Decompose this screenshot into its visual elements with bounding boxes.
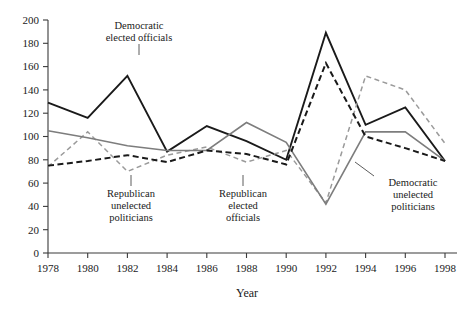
annotation-label-republican-unelected-politicians: Republicanunelectedpoliticians	[107, 188, 156, 223]
annotation-label-democratic-unelected-politicians: Democraticunelectedpoliticians	[389, 177, 438, 212]
annotation-line: Republican	[219, 188, 268, 199]
y-axis-tick-label: 100	[23, 130, 40, 142]
annotations-layer: Democraticelected officialsRepublicanune…	[106, 20, 438, 223]
y-axis-tick-label: 180	[23, 37, 40, 49]
x-axis-tick-label: 1986	[196, 262, 219, 274]
annotation-line: Republican	[107, 188, 156, 199]
series-line-1	[48, 76, 445, 203]
x-axis-tick-label: 1982	[116, 262, 138, 274]
annotation-line: elected officials	[106, 32, 173, 43]
y-axis-tick-label: 200	[23, 14, 40, 26]
x-axis-tick-label: 1990	[275, 262, 298, 274]
annotation-line: officials	[226, 212, 260, 223]
x-axis-tick-label: 1980	[77, 262, 100, 274]
annotation-line: unelected	[393, 189, 434, 200]
x-axis-tick-label: 1984	[156, 262, 179, 274]
x-axis-tick-label: 1998	[434, 262, 457, 274]
y-axis: 020406080100120140160180200	[23, 14, 49, 259]
y-axis-tick-label: 0	[34, 247, 40, 259]
annotation-line: politicians	[391, 201, 435, 212]
chart-container: 020406080100120140160180200 197819801982…	[0, 0, 469, 310]
y-axis-tick-label: 40	[28, 200, 40, 212]
annotation-label-republican-elected-officials: Republicanelectedofficials	[219, 188, 268, 223]
series-line-3	[48, 63, 445, 166]
series-layer	[48, 33, 445, 204]
y-axis-tick-label: 80	[28, 154, 40, 166]
x-axis-tick-label: 1994	[355, 262, 378, 274]
x-axis-tick-label: 1992	[315, 262, 337, 274]
annotation-line: Democratic	[389, 177, 438, 188]
y-axis-tick-label: 120	[23, 107, 40, 119]
annotation-line: unelected	[111, 200, 152, 211]
x-axis-tick-label: 1988	[236, 262, 259, 274]
y-axis-tick-label: 160	[23, 60, 40, 72]
x-axis-tick-label: 1978	[37, 262, 60, 274]
line-chart-svg: 020406080100120140160180200 197819801982…	[0, 0, 469, 310]
y-axis-tick-label: 140	[23, 84, 40, 96]
annotation-line: politicians	[109, 212, 153, 223]
y-axis-tick-label: 60	[28, 177, 40, 189]
annotation-line: elected	[228, 200, 258, 211]
x-axis-title: Year	[236, 286, 258, 300]
annotation-leader-democratic-unelected-politicians	[355, 162, 374, 176]
annotation-line: Democratic	[115, 20, 164, 31]
annotation-label-democratic-elected-officials: Democraticelected officials	[106, 20, 173, 43]
x-axis-tick-label: 1996	[394, 262, 417, 274]
y-axis-tick-label: 20	[28, 224, 40, 236]
x-axis: 1978198019821984198619881990199219941996…	[37, 253, 457, 274]
